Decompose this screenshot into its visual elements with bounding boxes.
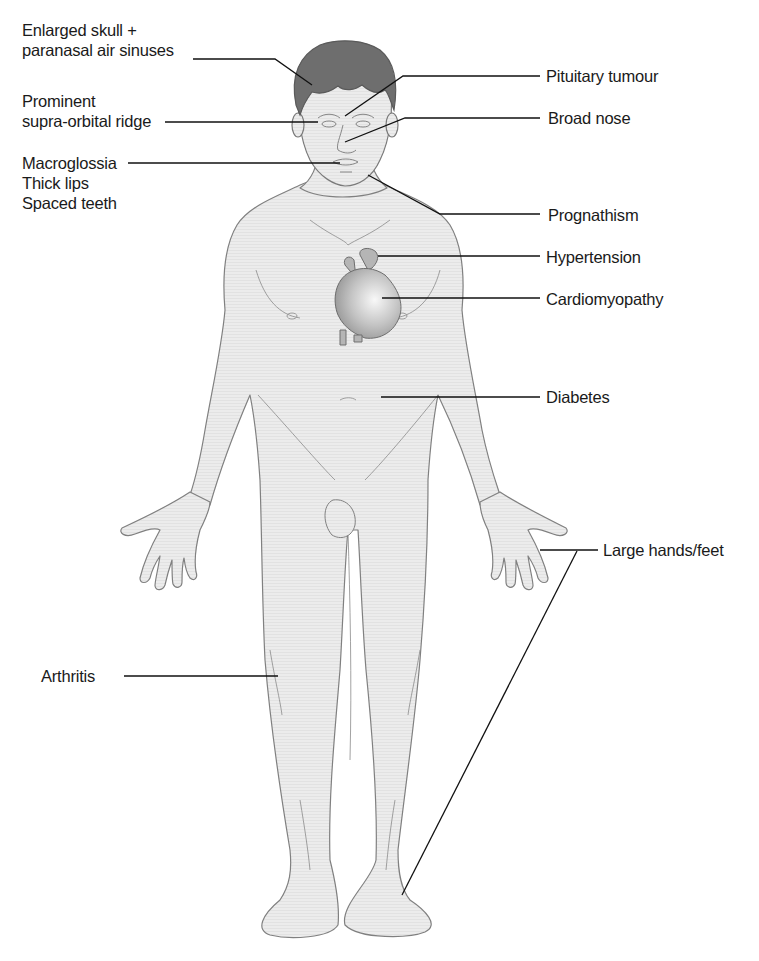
label-mouth-features: Macroglossia Thick lips Spaced teeth: [22, 153, 117, 213]
body-outline: [121, 150, 567, 938]
label-arthritis: Arthritis: [41, 666, 95, 686]
label-prognathism: Prognathism: [548, 205, 638, 225]
label-enlarged-skull: Enlarged skull + paranasal air sinuses: [22, 20, 174, 60]
label-diabetes: Diabetes: [546, 387, 610, 407]
label-hypertension: Hypertension: [546, 247, 641, 267]
label-line: Arthritis: [41, 666, 95, 686]
label-line: Enlarged skull +: [22, 20, 174, 40]
head: [292, 41, 398, 186]
label-line: Spaced teeth: [22, 193, 117, 213]
label-broad-nose: Broad nose: [548, 108, 630, 128]
label-line: Prominent: [22, 91, 151, 111]
label-pituitary-tumour: Pituitary tumour: [546, 66, 658, 86]
acromegaly-diagram: Enlarged skull + paranasal air sinuses P…: [0, 0, 759, 961]
label-line: Thick lips: [22, 173, 117, 193]
label-line: supra-orbital ridge: [22, 111, 151, 131]
label-supraorbital-ridge: Prominent supra-orbital ridge: [22, 91, 151, 131]
body-illustration: [0, 0, 759, 961]
label-large-hands-feet: Large hands/feet: [603, 540, 724, 560]
label-cardiomyopathy: Cardiomyopathy: [546, 289, 663, 309]
label-line: paranasal air sinuses: [22, 40, 174, 60]
label-line: Macroglossia: [22, 153, 117, 173]
